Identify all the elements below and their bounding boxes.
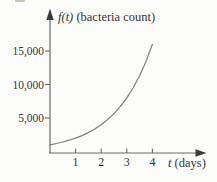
y-tick-label: 5,000	[0, 111, 44, 125]
y-tick-label: 15,000	[0, 44, 44, 58]
bacteria-growth-figure: f(t) (bacteria count) t (days) 5,00010,0…	[0, 0, 217, 182]
x-tick-label: 3	[117, 155, 137, 170]
x-axis-title: t (days)	[168, 156, 206, 171]
x-tick-label: 1	[66, 155, 86, 170]
y-tick-label: 10,000	[0, 78, 44, 92]
x-tick-label: 2	[91, 155, 111, 170]
y-axis-variable: f(t)	[58, 10, 73, 24]
x-tick-label: 4	[142, 155, 162, 170]
x-axis-title-rest: (days)	[171, 156, 205, 170]
y-axis-title-rest: (bacteria count)	[73, 10, 155, 24]
y-axis-title: f(t) (bacteria count)	[58, 10, 155, 25]
